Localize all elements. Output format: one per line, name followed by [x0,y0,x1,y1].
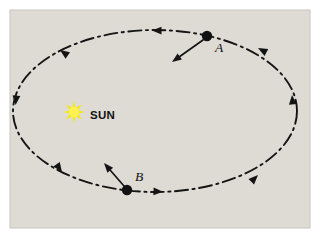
sun-core-icon [69,107,80,118]
orbit-diagram-figure: SUN AB [0,0,322,238]
body-dot-b [122,185,132,195]
orbit-diagram-canvas: SUN AB [0,0,322,238]
body-label-b: B [135,169,143,184]
sun-label: SUN [90,109,115,121]
diagram-panel-background [10,10,310,228]
body-dot-a [202,31,212,41]
sun-symbol-group [63,101,85,123]
body-label-a: A [214,40,224,55]
